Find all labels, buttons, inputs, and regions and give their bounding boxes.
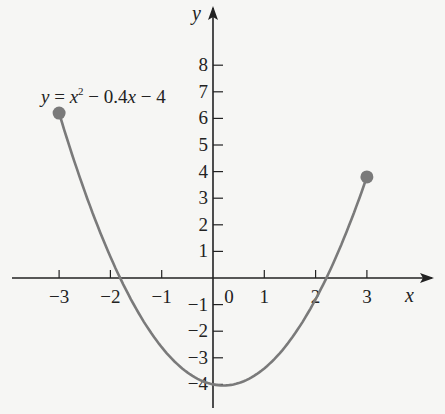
eq-rest2: − 4 bbox=[136, 86, 166, 107]
y-tick-label: 4 bbox=[199, 161, 209, 182]
y-tick-label: −4 bbox=[188, 373, 209, 394]
x-ticks: −3−2−10123 bbox=[49, 270, 372, 307]
y-tick-label: 5 bbox=[199, 134, 209, 155]
axes bbox=[12, 8, 432, 408]
x-tick-label: −2 bbox=[100, 286, 120, 307]
eq-y: y bbox=[39, 86, 50, 107]
y-tick-label: −3 bbox=[188, 347, 208, 368]
x-tick-label: 1 bbox=[260, 286, 270, 307]
y-tick-label: 1 bbox=[199, 240, 209, 261]
endpoint-marker bbox=[360, 170, 373, 183]
x-tick-label: −3 bbox=[49, 286, 69, 307]
y-tick-label: 2 bbox=[199, 214, 209, 235]
y-tick-label: −1 bbox=[188, 294, 208, 315]
y-axis-label: y bbox=[190, 2, 201, 25]
x-tick-label: 3 bbox=[362, 286, 372, 307]
y-tick-label: 6 bbox=[199, 107, 209, 128]
chart-figure: −3−2−10123 −4−3−2−112345678 x y y = x2 −… bbox=[0, 0, 445, 414]
equation-label: y = x2 − 0.4x − 4 bbox=[39, 85, 166, 107]
eq-rest1: − 0.4 bbox=[84, 86, 128, 107]
x-axis-label: x bbox=[404, 284, 414, 306]
y-tick-label: 8 bbox=[199, 54, 209, 75]
y-tick-label: 7 bbox=[199, 81, 209, 102]
x-tick-label: −1 bbox=[152, 286, 172, 307]
eq-equals: = bbox=[49, 86, 69, 107]
x-tick-label: 0 bbox=[224, 286, 234, 307]
y-tick-label: 3 bbox=[199, 187, 209, 208]
y-ticks: −4−3−2−112345678 bbox=[188, 54, 223, 394]
y-tick-label: −2 bbox=[188, 320, 208, 341]
plot-canvas: −3−2−10123 −4−3−2−112345678 x y y = x2 −… bbox=[0, 0, 445, 414]
endpoint-marker bbox=[53, 107, 66, 120]
